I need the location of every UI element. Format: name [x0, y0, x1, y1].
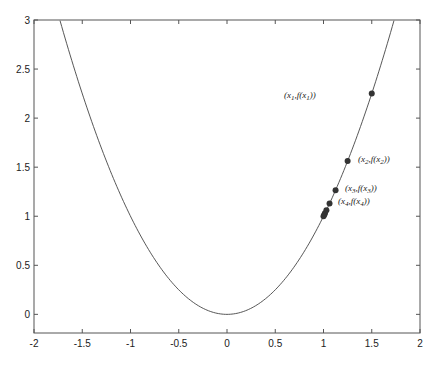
chart: -2-1.5-1-0.500.511.52 00.511.522.53 (x1,…	[0, 0, 440, 366]
x-tick-label: 2	[417, 338, 423, 349]
y-tick-label: 2	[24, 113, 30, 124]
iterate-point	[327, 201, 333, 207]
y-tick-label: 1	[24, 211, 30, 222]
x-tick-label: 1.5	[365, 338, 379, 349]
y-tick-label: 0.5	[16, 260, 30, 271]
y-axis-ticks: 00.511.522.53	[16, 15, 420, 320]
y-tick-label: 0	[24, 309, 30, 320]
x-tick-label: -2	[30, 338, 39, 349]
iterate-point	[369, 91, 375, 97]
x-tick-label: -0.5	[170, 338, 188, 349]
x-tick-label: 0	[224, 338, 230, 349]
iterate-point	[333, 187, 339, 193]
axes-box	[34, 20, 420, 333]
point-label-3: (x3,f(x3))	[345, 183, 377, 195]
plot-area: -2-1.5-1-0.500.511.52 00.511.522.53 (x1,…	[16, 15, 423, 350]
parabola-curve	[60, 21, 394, 315]
x-tick-label: -1	[126, 338, 135, 349]
iterate-point	[321, 213, 327, 219]
point-label-2: (x2,f(x2))	[358, 154, 390, 166]
x-tick-label: 1	[321, 338, 327, 349]
point-label-1: (x1,f(x1))	[284, 90, 316, 102]
y-tick-label: 1.5	[16, 162, 30, 173]
x-tick-label: 0.5	[268, 338, 282, 349]
y-tick-label: 2.5	[16, 64, 30, 75]
point-label-4: (x4,f(x4))	[338, 196, 370, 208]
iterate-point	[345, 158, 351, 164]
x-tick-label: -1.5	[74, 338, 92, 349]
y-tick-label: 3	[24, 15, 30, 26]
